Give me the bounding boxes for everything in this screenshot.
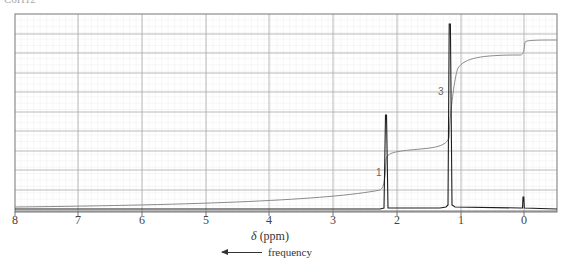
x-axis-unit: (ppm)	[260, 229, 289, 243]
tick-label-7: 7	[75, 213, 81, 228]
tick-label-5: 5	[203, 213, 209, 228]
integration-label-1: 1	[376, 167, 382, 178]
nmr-spectrum-chart	[0, 0, 564, 267]
chart-grid	[15, 14, 557, 212]
frequency-label: frequency	[268, 246, 312, 258]
tick-label-8: 8	[12, 213, 18, 228]
integration-label-3: 3	[438, 86, 444, 97]
x-axis-label: δ (ppm)	[251, 229, 289, 244]
tick-label-3: 3	[330, 213, 336, 228]
delta-symbol: δ	[251, 229, 257, 243]
tick-label-4: 4	[266, 213, 272, 228]
tick-label-1: 1	[458, 213, 464, 228]
tick-label-6: 6	[139, 213, 145, 228]
left-arrow-icon	[222, 252, 262, 253]
tick-label-2: 2	[394, 213, 400, 228]
tick-label-0: 0	[521, 213, 527, 228]
frequency-direction: frequency	[222, 246, 312, 258]
